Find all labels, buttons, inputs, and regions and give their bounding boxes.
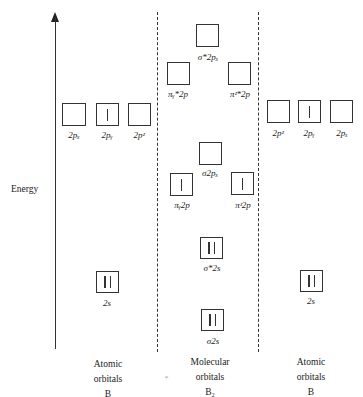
orbital-box-pi-star-z-2p — [228, 62, 251, 85]
orbital-label: 2pᶻ — [272, 128, 283, 138]
orbital-label: πᶻ2p — [235, 200, 251, 210]
electron — [215, 314, 216, 326]
title-line: Atomic — [94, 357, 123, 372]
title-line: orbitals — [94, 372, 123, 387]
electron — [107, 109, 108, 121]
orbital-label: 2pₓ — [336, 128, 348, 138]
title-line: B — [94, 387, 123, 397]
electron — [314, 275, 315, 287]
orbital-label: σ*2pₓ — [198, 52, 219, 62]
title-line: orbitals — [297, 370, 326, 385]
orbital-label: 2pₓ — [68, 130, 80, 140]
title-line: B — [297, 385, 326, 397]
electron — [208, 242, 209, 254]
orbital-box-sigma-star-2s — [200, 237, 223, 259]
orbital-box-sigma-star-2px — [196, 24, 219, 47]
orbital-label: 2pᵧ — [101, 130, 112, 140]
electron — [308, 275, 309, 287]
orbital-box-pi-star-y-2p — [167, 62, 190, 85]
title-line: Molecular — [190, 355, 229, 370]
electron — [209, 314, 210, 326]
orbital-box-left-2pz — [128, 103, 151, 126]
orbital-label: σ2s — [207, 336, 219, 346]
stray-mark: ᵩ — [165, 372, 168, 380]
left-column-title: Atomic orbitals B — [94, 357, 123, 397]
orbital-label: σ2pₓ — [202, 168, 218, 178]
orbital-box-right-2s — [300, 270, 323, 292]
electron — [104, 276, 105, 288]
energy-label: Energy — [11, 184, 38, 194]
electron — [242, 178, 243, 190]
orbital-label: πᶻ*2p — [230, 89, 250, 99]
electron — [309, 106, 310, 118]
orbital-box-pi-y-2p — [170, 173, 193, 196]
orbital-label: πᵧ2p — [174, 200, 190, 210]
title-line: B₂ — [190, 385, 229, 397]
middle-column-title: Molecular orbitals B₂ — [190, 355, 229, 397]
orbital-box-right-2px — [330, 100, 353, 123]
title-line: Atomic — [297, 355, 326, 370]
right-column-title: Atomic orbitals B — [297, 355, 326, 397]
title-line: orbitals — [190, 370, 229, 385]
orbital-label: 2s — [103, 298, 111, 308]
orbital-label: 2pᵧ — [303, 128, 314, 138]
orbital-label: πᵧ*2p — [168, 89, 188, 99]
orbital-box-left-2s — [96, 271, 119, 293]
orbital-label: σ*2s — [204, 263, 221, 273]
orbital-box-right-2pz — [267, 100, 290, 123]
orbital-label: 2s — [307, 296, 315, 306]
orbital-box-sigma-2s — [201, 309, 224, 331]
electron — [214, 242, 215, 254]
electron — [181, 179, 182, 191]
orbital-label: 2pᶻ — [133, 130, 144, 140]
orbital-box-left-2px — [62, 103, 86, 126]
electron — [110, 276, 111, 288]
left-divider — [157, 12, 158, 352]
orbital-box-right-2py — [298, 100, 321, 123]
orbital-box-left-2py — [96, 103, 119, 126]
orbital-box-pi-z-2p — [231, 172, 254, 195]
right-divider — [258, 12, 259, 352]
orbital-box-sigma-2px — [199, 142, 222, 165]
axis-line — [55, 18, 56, 349]
